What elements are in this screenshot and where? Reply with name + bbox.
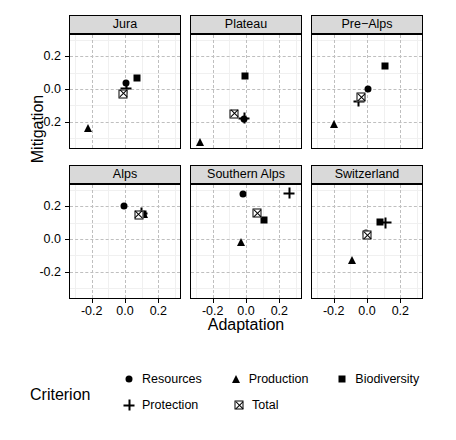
facet-plot-area — [69, 34, 181, 149]
facet-panel-plateau: Plateau — [190, 15, 302, 149]
legend-items: ResourcesProductionBiodiversityProtectio… — [120, 366, 440, 418]
gridline-minor-vertical — [384, 185, 385, 298]
gridline-minor-vertical — [75, 185, 76, 298]
gridline-minor-vertical — [175, 185, 176, 298]
legend-entry-production[interactable]: Production — [227, 370, 334, 388]
data-point-protection — [380, 217, 391, 228]
gridline-minor-vertical — [263, 35, 264, 148]
gridline-major-horizontal — [191, 56, 301, 57]
x-tick-mark — [400, 299, 401, 303]
panel-canvas — [191, 185, 301, 298]
data-point-total — [134, 210, 143, 219]
legend-row: ProtectionTotal — [120, 392, 440, 418]
legend-key-triangle-icon — [227, 370, 245, 388]
gridline-major-horizontal — [191, 272, 301, 273]
marker-triangle — [232, 375, 240, 383]
facet-plot-area — [190, 34, 302, 149]
gridline-major-vertical — [400, 35, 401, 148]
gridline-major-horizontal — [312, 56, 422, 57]
gridline-minor-vertical — [142, 35, 143, 148]
gridline-major-horizontal — [70, 56, 180, 57]
panel-canvas — [312, 35, 422, 148]
data-point-production — [348, 256, 356, 264]
gridline-major-vertical — [213, 35, 214, 148]
legend-entry-protection[interactable]: Protection — [120, 396, 230, 414]
gridline-minor-vertical — [350, 35, 351, 148]
facet-strip-label: Pre−Alps — [311, 15, 423, 34]
gridline-major-vertical — [400, 185, 401, 298]
gridline-major-vertical — [92, 35, 93, 148]
facet-panel-alps: Alps — [69, 165, 181, 299]
data-point-biodiversity — [242, 72, 249, 79]
gridline-minor-vertical — [108, 185, 109, 298]
gridline-major-vertical — [158, 185, 159, 298]
gridline-major-vertical — [334, 185, 335, 298]
facet-panel-southern-alps: Southern Alps — [190, 165, 302, 299]
facet-strip-label: Jura — [69, 15, 181, 34]
y-tick-label: 0.2 — [21, 199, 61, 213]
scatter-plot-figure: Mitigation 0.20.0-0.20.20.0-0.2 JuraPlat… — [0, 0, 456, 440]
gridline-minor-vertical — [417, 35, 418, 148]
data-point-total — [357, 93, 366, 102]
facet-panel-switzerland: Switzerland — [311, 165, 423, 299]
x-tick-mark — [279, 299, 280, 303]
data-point-resources — [240, 191, 247, 198]
x-tick-mark — [334, 299, 335, 303]
legend-key-squarex-icon — [230, 396, 248, 414]
gridline-major-horizontal — [191, 239, 301, 240]
gridline-major-horizontal — [312, 206, 422, 207]
legend-entry-total[interactable]: Total — [230, 396, 340, 414]
gridline-major-vertical — [246, 185, 247, 298]
legend-label: Biodiversity — [355, 372, 419, 386]
data-point-total — [119, 89, 128, 98]
panel-canvas — [70, 35, 180, 148]
data-point-protection — [239, 113, 250, 124]
legend-label: Resources — [142, 372, 202, 386]
gridline-minor-vertical — [296, 185, 297, 298]
gridline-major-vertical — [279, 185, 280, 298]
marker-plus — [124, 400, 135, 411]
gridline-minor-vertical — [229, 185, 230, 298]
gridline-major-vertical — [92, 185, 93, 298]
data-point-biodiversity — [134, 74, 141, 81]
gridline-minor-vertical — [196, 185, 197, 298]
gridline-major-horizontal — [191, 89, 301, 90]
data-point-total — [230, 109, 239, 118]
gridline-minor-vertical — [317, 35, 318, 148]
x-tick-mark — [158, 299, 159, 303]
panel-canvas — [70, 185, 180, 298]
gridline-major-vertical — [334, 35, 335, 148]
legend-key-plus-icon — [120, 396, 138, 414]
facet-plot-area — [311, 34, 423, 149]
panel-canvas — [191, 35, 301, 148]
legend-title: Criterion — [30, 386, 90, 404]
gridline-minor-vertical — [142, 185, 143, 298]
panel-canvas — [312, 185, 422, 298]
gridline-major-horizontal — [191, 206, 301, 207]
facet-strip-label: Southern Alps — [190, 165, 302, 184]
facet-grid: JuraPlateauPre−AlpsAlpsSouthern AlpsSwit… — [69, 15, 423, 299]
gridline-major-horizontal — [312, 272, 422, 273]
gridline-minor-vertical — [317, 185, 318, 298]
legend-entry-resources[interactable]: Resources — [120, 370, 227, 388]
legend-label: Protection — [142, 398, 198, 412]
facet-strip-label: Alps — [69, 165, 181, 184]
gridline-major-horizontal — [70, 272, 180, 273]
gridline-minor-vertical — [384, 35, 385, 148]
facet-panel-pre-alps: Pre−Alps — [311, 15, 423, 149]
gridline-major-horizontal — [70, 239, 180, 240]
facet-strip-label: Plateau — [190, 15, 302, 34]
y-axis-title: Mitigation — [29, 39, 47, 219]
data-point-total — [363, 231, 372, 240]
legend-entry-biodiversity[interactable]: Biodiversity — [333, 370, 440, 388]
gridline-minor-vertical — [175, 35, 176, 148]
gridline-minor-vertical — [229, 35, 230, 148]
y-tick-label: 0.0 — [21, 232, 61, 246]
legend-key-circle-icon — [120, 370, 138, 388]
gridline-major-vertical — [158, 35, 159, 148]
y-tick-label: 0.2 — [21, 49, 61, 63]
y-tick-label: 0.0 — [21, 82, 61, 96]
y-tick-label: -0.2 — [21, 265, 61, 279]
data-point-production — [237, 238, 245, 246]
legend: Criterion ResourcesProductionBiodiversit… — [0, 360, 456, 430]
